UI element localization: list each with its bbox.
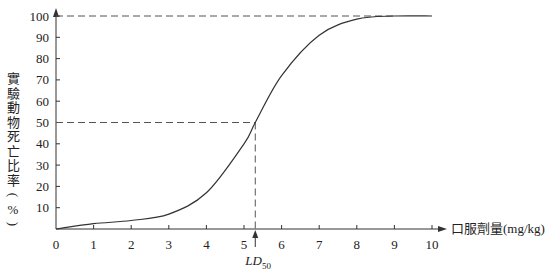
x-tick-label: 8 — [354, 237, 361, 252]
y-tick-label: 50 — [36, 115, 49, 130]
y-label-char: 物 — [7, 115, 20, 130]
x-tick-label: 4 — [203, 237, 210, 252]
y-tick-label: 20 — [36, 179, 49, 194]
y-label-char: 驗 — [7, 86, 20, 101]
ld50-label: LD50 — [244, 253, 271, 271]
y-label-char: % — [8, 202, 19, 217]
y-label-char: 死 — [7, 129, 20, 144]
y-label-char: 亡 — [7, 144, 20, 159]
y-tick-label: 10 — [36, 200, 49, 215]
y-label-char: 動 — [7, 100, 20, 115]
y-tick-label: 40 — [36, 136, 49, 151]
x-tick-label: 5 — [241, 237, 248, 252]
x-axis-label: 口服劑量(mg/kg) — [451, 221, 545, 236]
x-tick-label: 0 — [53, 237, 60, 252]
ld50-chart: 012345678910 102030405060708090100 LD50 … — [0, 0, 557, 275]
x-tick-label: 6 — [278, 237, 285, 252]
y-label-char: ( — [6, 193, 21, 197]
y-label-char: 比 — [7, 158, 20, 173]
axes — [53, 8, 447, 232]
x-tick-label: 7 — [316, 237, 323, 252]
y-ticks: 102030405060708090100 — [30, 9, 61, 216]
y-tick-label: 90 — [36, 30, 49, 45]
x-tick-label: 9 — [391, 237, 398, 252]
x-tick-label: 2 — [128, 237, 135, 252]
x-tick-label: 3 — [166, 237, 173, 252]
y-tick-label: 70 — [36, 72, 49, 87]
y-tick-label: 60 — [36, 94, 49, 109]
y-tick-label: 30 — [36, 158, 49, 173]
y-label-char: ) — [6, 222, 21, 226]
x-tick-label: 1 — [90, 237, 97, 252]
y-tick-label: 100 — [30, 9, 50, 24]
y-axis-label: 實驗動物死亡比率(%) — [6, 71, 21, 226]
y-label-char: 率 — [7, 173, 20, 188]
ld50-arrow-icon — [252, 230, 258, 238]
x-tick-label: 10 — [426, 237, 439, 252]
guide-lines — [56, 16, 394, 229]
x-axis-arrow-icon — [438, 226, 447, 232]
y-label-char: 實 — [7, 71, 20, 86]
y-tick-label: 80 — [36, 51, 49, 66]
ld50-marker: LD50 — [244, 230, 271, 271]
